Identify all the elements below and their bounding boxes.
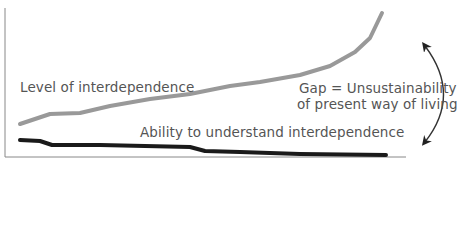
series1-label: Level of interdependence: [20, 79, 194, 95]
gap-label-line2: of present way of living: [297, 96, 458, 112]
gap-label-line1: Gap = Unsustainability: [299, 80, 457, 96]
series2-label: Ability to understand interdependence: [140, 124, 404, 140]
understanding-line: [20, 140, 386, 155]
